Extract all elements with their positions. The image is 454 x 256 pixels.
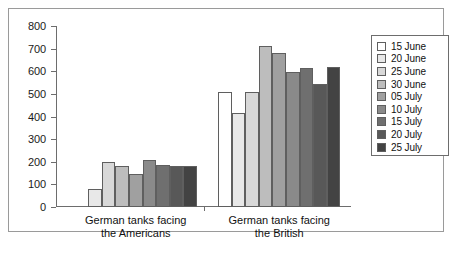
y-axis-tick [51,71,56,72]
bar[interactable] [313,84,327,207]
legend: 15 June20 June25 June30 June05 July10 Ju… [371,35,449,156]
legend-label: 30 June [391,79,426,90]
y-axis-tick-label: 400 [28,111,46,123]
legend-item[interactable]: 15 June [377,40,448,53]
category-label: German tanks facing the British [209,214,349,240]
legend-swatch [377,130,386,139]
legend-swatch [377,67,386,76]
legend-item[interactable]: 25 June [377,65,448,78]
legend-swatch [377,143,386,152]
bar-group [75,26,197,207]
legend-label: 20 June [391,53,426,64]
legend-item[interactable]: 10 July [377,103,448,116]
y-axis-tick-label: 600 [28,65,46,77]
bar[interactable] [286,72,300,207]
legend-swatch [377,92,386,101]
category-label: German tanks facing the Americans [66,214,206,240]
y-axis-tick [51,26,56,27]
y-axis-tick-label: 200 [28,156,46,168]
y-axis-tick-label: 300 [28,133,46,145]
bar[interactable] [218,92,232,207]
bar[interactable] [300,68,314,207]
legend-swatch [377,117,386,126]
legend-swatch [377,80,386,89]
bar[interactable] [102,162,116,207]
y-axis-tick-label: 500 [28,88,46,100]
bar[interactable] [183,166,197,207]
legend-item[interactable]: 20 July [377,128,448,141]
bar-chart: 0100200300400500600700800 German tanks f… [0,0,454,256]
y-axis-tick [51,184,56,185]
y-axis-tick [51,207,56,208]
legend-item[interactable]: 25 July [377,141,448,154]
y-axis-tick-label: 800 [28,20,46,32]
y-axis-tick-label: 700 [28,43,46,55]
y-axis-tick-label: 0 [40,201,46,213]
bar[interactable] [115,166,129,207]
plot-area: 0100200300400500600700800 [56,26,351,207]
legend-item[interactable]: 20 June [377,53,448,66]
bar-group [218,26,340,207]
legend-label: 15 June [391,41,426,52]
y-axis-tick [51,162,56,163]
legend-item[interactable]: 30 June [377,78,448,91]
legend-item[interactable]: 05 July [377,90,448,103]
legend-label: 15 July [391,116,422,127]
bar[interactable] [88,189,102,207]
bar[interactable] [259,46,273,207]
legend-item[interactable]: 15 July [377,116,448,129]
legend-label: 10 July [391,104,422,115]
bar[interactable] [245,92,259,207]
bar[interactable] [232,113,246,207]
legend-label: 25 July [391,142,422,153]
y-axis-tick-label: 100 [28,178,46,190]
figure-frame: 0100200300400500600700800 German tanks f… [8,8,444,232]
bar[interactable] [156,165,170,207]
bar[interactable] [129,174,143,207]
y-axis-tick [51,49,56,50]
legend-swatch [377,42,386,51]
bar[interactable] [272,53,286,207]
legend-swatch [377,54,386,63]
y-axis-tick [51,139,56,140]
legend-label: 05 July [391,91,422,102]
y-axis-tick [51,117,56,118]
y-axis-tick [51,94,56,95]
bar[interactable] [327,67,341,207]
bar[interactable] [143,160,157,208]
legend-swatch [377,105,386,114]
legend-label: 25 June [391,66,426,77]
bar[interactable] [170,166,184,207]
x-axis-tick [204,207,205,211]
legend-label: 20 July [391,129,422,140]
